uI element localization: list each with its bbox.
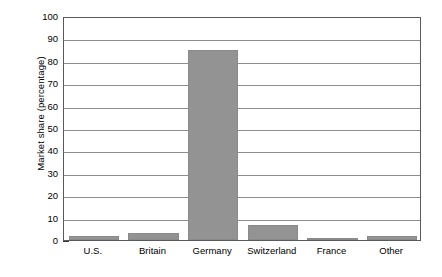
y-tick-label: 80	[30, 57, 58, 67]
y-tick-label: 50	[30, 124, 58, 134]
market-share-bar-chart: Market share (percentage) 01020304050607…	[0, 0, 442, 277]
x-tick-label: Germany	[193, 245, 232, 256]
y-major-tick-mark	[63, 241, 69, 242]
bars-group	[64, 18, 420, 240]
bar	[128, 233, 178, 240]
y-tick-label: 30	[30, 169, 58, 179]
y-tick-label: 100	[30, 12, 58, 22]
bar	[248, 225, 298, 240]
x-tick-label: Britain	[139, 245, 166, 256]
x-tick-label: Switzerland	[247, 245, 296, 256]
y-tick-label: 40	[30, 147, 58, 157]
x-tick-label: France	[317, 245, 347, 256]
x-tick-label: U.S.	[84, 245, 102, 256]
bar	[307, 238, 357, 240]
y-tick-label: 70	[30, 79, 58, 89]
plot-area	[63, 17, 421, 241]
y-tick-label: 90	[30, 35, 58, 45]
y-axis-tick-labels: 0102030405060708090100	[30, 17, 58, 241]
y-tick-label: 0	[30, 236, 58, 246]
bar	[69, 236, 119, 240]
y-tick-label: 20	[30, 191, 58, 201]
bar	[367, 236, 417, 240]
bar	[188, 50, 238, 240]
x-axis-tick-labels: U.S.BritainGermanySwitzerlandFranceOther	[63, 245, 421, 263]
x-tick-label: Other	[379, 245, 403, 256]
y-tick-label: 10	[30, 214, 58, 224]
y-tick-label: 60	[30, 102, 58, 112]
